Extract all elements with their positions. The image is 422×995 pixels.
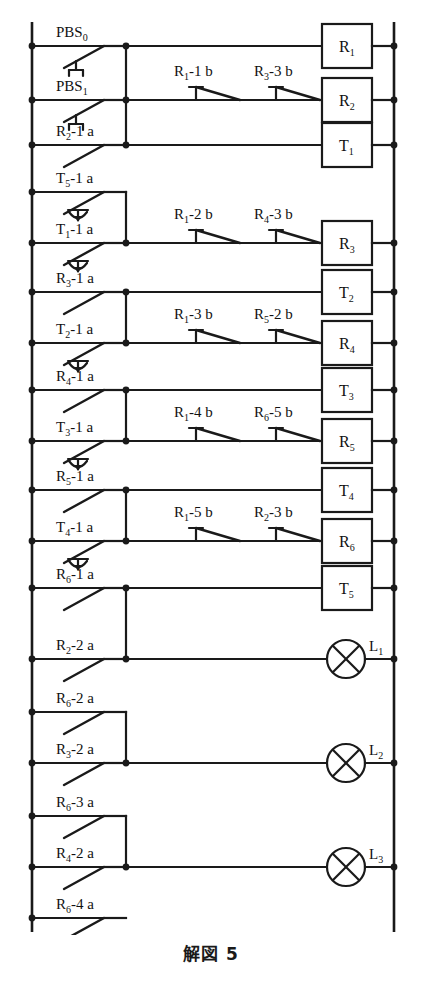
contact-r41a-label: R4-1 a	[56, 368, 94, 387]
svg-text:PBS1: PBS1	[56, 78, 88, 97]
contact-r15b[interactable]	[189, 528, 240, 541]
svg-text:R6-4 a: R6-4 a	[56, 896, 94, 915]
svg-text:R2-3 b: R2-3 b	[254, 504, 293, 523]
left-rail-node	[29, 760, 36, 767]
contact-r41a[interactable]	[32, 390, 126, 412]
contact-r43b[interactable]	[269, 230, 320, 243]
left-rail-node	[29, 709, 36, 716]
contact-t11a-label: T1-1 a	[56, 221, 93, 240]
output-lamp-l1-label: L1	[369, 638, 383, 657]
contact-r33b-label: R3-3 b	[254, 63, 293, 82]
contact-r23b[interactable]	[269, 528, 320, 541]
contact-r14b[interactable]	[189, 428, 240, 441]
output-r3: R3	[322, 221, 394, 265]
contact-r13b-label: R1-3 b	[174, 306, 213, 325]
svg-text:R3-1 a: R3-1 a	[56, 270, 94, 289]
svg-text:R6-2 a: R6-2 a	[56, 690, 94, 709]
contact-blade	[64, 390, 104, 412]
left-rail-node	[29, 97, 36, 104]
contact-r42a[interactable]	[32, 867, 126, 889]
contact-blade	[276, 87, 320, 100]
output-lamp-l2-label: L2	[369, 742, 383, 761]
output-t1: T1	[322, 123, 394, 167]
output-lamp-l3: L3	[327, 846, 394, 886]
left-rail-node	[29, 813, 36, 820]
contact-blade	[64, 712, 104, 734]
output-t5: T5	[322, 566, 394, 610]
contact-r21a[interactable]	[32, 145, 126, 167]
svg-text:R5-1 a: R5-1 a	[56, 468, 94, 487]
contact-r51a[interactable]	[32, 490, 126, 512]
contact-r61a[interactable]	[32, 588, 126, 610]
contact-pbs0-label: PBS0	[56, 24, 88, 43]
contact-r32a-label: R3-2 a	[56, 741, 94, 760]
contact-blade	[64, 100, 104, 122]
svg-text:T1-1 a: T1-1 a	[56, 221, 93, 240]
left-rail-node	[29, 142, 36, 149]
right-rail-node	[391, 585, 398, 592]
right-rail-node	[391, 864, 398, 871]
contact-blade	[64, 659, 104, 681]
svg-text:R4-1 a: R4-1 a	[56, 368, 94, 387]
svg-text:R4-3 b: R4-3 b	[254, 206, 293, 225]
contact-blade	[64, 918, 104, 935]
contact-blade	[276, 230, 320, 243]
left-rail-node	[29, 864, 36, 871]
output-t2: T2	[322, 270, 394, 314]
contact-t21a-label: T2-1 a	[56, 321, 93, 340]
ladder-diagram-sheet: PBS0R1PBS1R1-1 bR3-3 bR2R2-1 aT1T5-1 aT1…	[0, 0, 422, 995]
output-lamp-l2: L2	[327, 742, 394, 782]
contact-t31a-label: T3-1 a	[56, 419, 93, 438]
contact-r31a[interactable]	[32, 292, 126, 314]
contact-r13b[interactable]	[189, 330, 240, 343]
contact-r43b-label: R4-3 b	[254, 206, 293, 225]
contact-blade	[64, 588, 104, 610]
right-rail-node	[391, 387, 398, 394]
svg-text:R1-5 b: R1-5 b	[174, 504, 213, 523]
contact-blade	[196, 330, 240, 343]
left-rail-node	[29, 438, 36, 445]
contact-r62a[interactable]	[32, 712, 126, 734]
ladder-diagram-svg: PBS0R1PBS1R1-1 bR3-3 bR2R2-1 aT1T5-1 aT1…	[0, 0, 422, 935]
output-lamp-l3-label: L3	[369, 846, 383, 865]
contact-r65b-label: R6-5 b	[254, 404, 293, 423]
contact-t31a[interactable]	[32, 441, 126, 471]
contact-r63a[interactable]	[32, 816, 126, 838]
output-r1: R1	[322, 24, 394, 68]
svg-text:PBS0: PBS0	[56, 24, 88, 43]
right-rail-node	[391, 487, 398, 494]
contact-blade	[64, 490, 104, 512]
contact-r11b[interactable]	[189, 87, 240, 100]
svg-text:R6-1 a: R6-1 a	[56, 566, 94, 585]
contact-t51a[interactable]	[32, 192, 126, 222]
contact-r32a[interactable]	[32, 763, 126, 785]
contact-r52b[interactable]	[269, 330, 320, 343]
contact-pbs0[interactable]	[32, 46, 126, 76]
contact-r33b[interactable]	[269, 87, 320, 100]
figure-caption: 解図 5	[0, 940, 422, 965]
left-rail-node	[29, 289, 36, 296]
contact-r12b[interactable]	[189, 230, 240, 243]
contact-blade	[196, 528, 240, 541]
contact-t51a-label: T5-1 a	[56, 170, 93, 189]
right-rail-node	[391, 240, 398, 247]
svg-text:R1-1 b: R1-1 b	[174, 63, 213, 82]
left-rail-node	[29, 387, 36, 394]
contact-r64a[interactable]	[32, 918, 126, 935]
left-rail-node	[29, 189, 36, 196]
svg-text:T4-1 a: T4-1 a	[56, 519, 93, 538]
contact-t11a[interactable]	[32, 243, 126, 273]
left-rail-node	[29, 43, 36, 50]
right-rail-node	[391, 97, 398, 104]
contact-r22a[interactable]	[32, 659, 126, 681]
contact-r65b[interactable]	[269, 428, 320, 441]
output-t3: T3	[322, 368, 394, 412]
right-rail-node	[391, 538, 398, 545]
output-t4: T4	[322, 468, 394, 512]
svg-text:R6-3 a: R6-3 a	[56, 794, 94, 813]
contact-blade	[64, 145, 104, 167]
contact-r21a-label: R2-1 a	[56, 123, 94, 142]
right-rail-node	[391, 340, 398, 347]
contact-r14b-label: R1-4 b	[174, 404, 213, 423]
contact-t41a-label: T4-1 a	[56, 519, 93, 538]
